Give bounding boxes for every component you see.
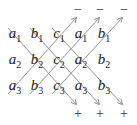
matrix-cell: b1 — [98, 26, 111, 44]
matrix-cell: a2 — [75, 52, 88, 70]
sarrus-diagram: − − − a1 b1 c1 a1 b1 a2 b2 c2 a2 b2 a3 b… — [0, 0, 137, 125]
matrix-cell: b3 — [98, 78, 111, 96]
plus-sign: + — [96, 107, 104, 121]
matrix-cell: b2 — [98, 52, 111, 70]
matrix-cell: c1 — [53, 26, 65, 44]
matrix-cell: a2 — [9, 52, 22, 70]
minus-sign: − — [96, 3, 104, 17]
matrix-cell: b3 — [31, 78, 44, 96]
matrix-cell: c3 — [53, 78, 65, 96]
matrix-cell: a3 — [9, 78, 22, 96]
minus-sign: − — [120, 3, 128, 17]
minus-sign: − — [74, 3, 82, 17]
matrix-cell: a1 — [9, 26, 22, 44]
matrix-cell: a1 — [75, 26, 88, 44]
matrix-cell: b1 — [31, 26, 44, 44]
plus-sign: + — [120, 107, 128, 121]
matrix-cell: a3 — [75, 78, 88, 96]
matrix-cell: b2 — [31, 52, 44, 70]
plus-sign: + — [74, 107, 82, 121]
matrix-cell: c2 — [53, 52, 65, 70]
